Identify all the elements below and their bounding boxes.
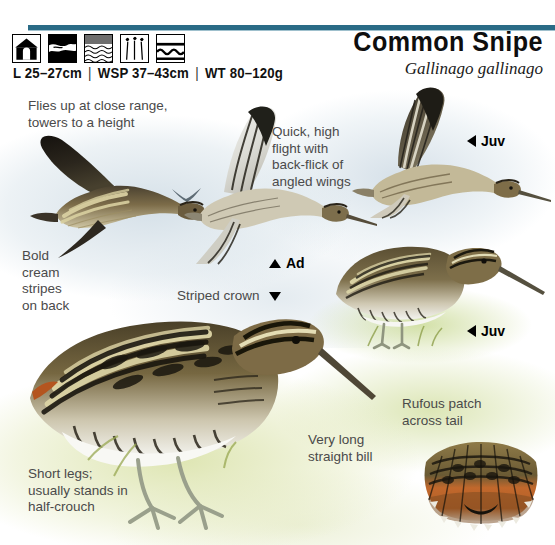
measure-separator-1: | [82,64,98,81]
annotation-striped-crown-group: Striped crown [177,288,281,305]
length-value: L 25–27cm [13,64,82,81]
field-guide-page: L 25–27cm|WSP 37–43cm|WT 80–120g Common … [0,0,555,545]
annotation-flies-up: Flies up at close range, towers to a hei… [28,98,168,131]
age-label-juv-lower: Juv [467,323,505,339]
wingspan-value: WSP 37–43cm [98,64,189,81]
reeds-habitat-icon [120,34,149,63]
annotation-rufous-patch: Rufous patch across tail [402,396,482,429]
open-water-habitat-icon [156,34,185,63]
annotation-quick-high-flight: Quick, high flight with back-flick of an… [272,124,351,190]
annotation-very-long-bill: Very long straight bill [308,432,373,465]
arrow-down-icon [269,292,281,301]
age-label-text: Ad [286,255,305,271]
age-label-ad-center: Ad [269,255,305,271]
house-habitat-icon [12,34,41,63]
age-label-text: Juv [481,323,505,339]
annotation-striped-crown: Striped crown [177,288,260,305]
species-title-block: Common Snipe Gallinago gallinago [339,28,543,79]
shallow-water-habitat-icon [84,34,113,63]
weight-value: WT 80–120g [205,64,283,81]
plate-spread-tail-fan [418,440,544,536]
arrow-left-icon [467,325,476,337]
measurements-line: L 25–27cm|WSP 37–43cm|WT 80–120g [13,64,283,81]
habitat-icon-row [12,34,185,63]
age-label-text: Juv [481,133,505,149]
scientific-name: Gallinago gallinago [339,59,543,79]
age-label-juv-upper: Juv [467,133,505,149]
plate-flying-snipe-juvenile-right [352,88,552,218]
arrow-up-icon [269,259,281,268]
page-title: Common Snipe [353,28,543,56]
measure-separator-2: | [189,64,205,81]
marsh-habitat-icon [48,34,77,63]
annotation-short-legs: Short legs; usually stands in half-crouc… [28,466,128,516]
annotation-bold-cream-stripes: Bold cream stripes on back [22,248,69,314]
arrow-left-icon [467,135,476,147]
